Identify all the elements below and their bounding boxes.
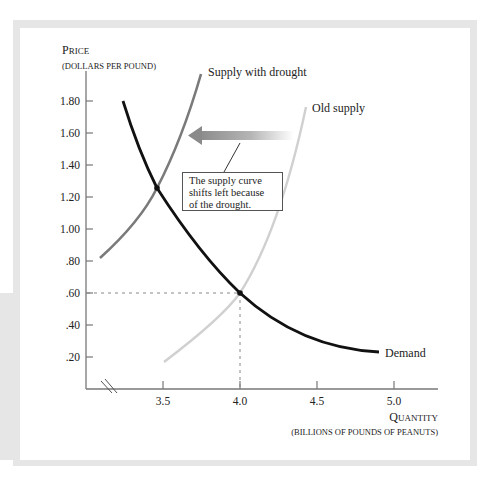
- demand-label: Demand: [385, 346, 426, 360]
- y-tick-label: .80: [66, 255, 81, 267]
- chart-svg: PRICE (DOLLARS PER POUND) .20 .40 .60 .8…: [0, 0, 491, 483]
- x-ticks: [163, 381, 394, 389]
- y-axis-title: PRICE: [62, 43, 90, 57]
- x-tick-label: 4.0: [233, 395, 248, 407]
- y-tick-label: 1.80: [60, 95, 80, 107]
- x-tick-label: 4.5: [310, 395, 325, 407]
- x-tick-labels: 3.5 4.0 4.5 5.0: [156, 395, 402, 407]
- y-tick-labels: .20 .40 .60 .80 1.00 1.20 1.40 1.60 1.80: [60, 95, 80, 363]
- callout-line: shifts left because: [189, 187, 282, 199]
- y-ticks: [86, 101, 93, 357]
- y-tick-label: 1.00: [60, 223, 80, 235]
- x-tick-label: 3.5: [156, 395, 171, 407]
- y-axis-subtitle: (DOLLARS PER POUND): [62, 61, 156, 71]
- x-axis-subtitle: (BILLIONS OF POUNDS OF PEANUTS): [291, 427, 438, 437]
- old-supply-label: Old supply: [312, 101, 365, 115]
- callout-line: of the drought.: [189, 199, 282, 211]
- y-tick-label: 1.20: [60, 191, 80, 203]
- y-tick-label: .60: [66, 287, 81, 299]
- new-equilibrium-point: [154, 185, 160, 191]
- shift-left-arrow-icon: [188, 126, 294, 145]
- y-tick-label: 1.40: [60, 159, 80, 171]
- axis-break-icon: [101, 379, 117, 393]
- callout-line: The supply curve: [189, 175, 282, 187]
- callout-leader-line: [224, 143, 240, 172]
- y-tick-label: 1.60: [60, 127, 80, 139]
- y-tick-label: .20: [66, 351, 81, 363]
- y-tick-label: .40: [66, 319, 81, 331]
- shift-callout-box: The supply curve shifts left because of …: [182, 172, 283, 211]
- x-axis-title: QUANTITY: [389, 410, 438, 424]
- drought-supply-label: Supply with drought: [208, 65, 307, 79]
- x-tick-label: 5.0: [387, 395, 402, 407]
- old-equilibrium-point: [237, 290, 243, 296]
- old-supply-curve: [164, 107, 306, 362]
